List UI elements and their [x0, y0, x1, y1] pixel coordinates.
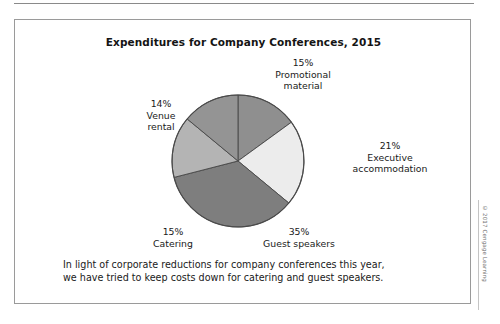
pie-label-executive-accommodation-percent: 21%: [315, 140, 465, 152]
pie-label-venue-rental-name1: Venue: [113, 110, 209, 122]
pie-label-promotional-material-name2: material: [243, 80, 363, 92]
figure-caption: In light of corporate reductions for com…: [63, 258, 429, 285]
figure-caption-line-1: In light of corporate reductions for com…: [63, 258, 429, 271]
pie-label-guest-speakers-percent: 35%: [237, 226, 361, 238]
pie-label-catering-name1: Catering: [125, 238, 221, 250]
pie-label-promotional-material: 15% Promotional material: [243, 57, 363, 92]
pie-label-venue-rental-percent: 14%: [113, 98, 209, 110]
pie-label-promotional-material-percent: 15%: [243, 57, 363, 69]
pie-label-catering-percent: 15%: [125, 226, 221, 238]
pie-label-executive-accommodation: 21% Executive accommodation: [315, 140, 465, 175]
pie-label-guest-speakers-name1: Guest speakers: [237, 238, 361, 250]
copyright-credit: © 2017 Cengage Learning: [476, 205, 488, 309]
pie-label-executive-accommodation-name2: accommodation: [315, 163, 465, 175]
figure-caption-line-2: we have tried to keep costs down for cat…: [63, 271, 429, 284]
figure-page: Expenditures for Company Conferences, 20…: [0, 0, 500, 324]
page-top-rule: [14, 3, 474, 4]
pie-label-guest-speakers: 35% Guest speakers: [237, 226, 361, 249]
pie-label-venue-rental-name2: rental: [113, 121, 209, 133]
figure-container: Expenditures for Company Conferences, 20…: [14, 19, 471, 304]
pie-label-executive-accommodation-name1: Executive: [315, 152, 465, 164]
pie-label-catering: 15% Catering: [125, 226, 221, 249]
pie-label-promotional-material-name1: Promotional: [243, 69, 363, 81]
pie-label-venue-rental: 14% Venue rental: [113, 98, 209, 133]
